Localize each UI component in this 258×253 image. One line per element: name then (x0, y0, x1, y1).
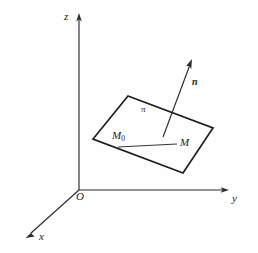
point-label-m0-subscript: 0 (121, 134, 125, 143)
x-axis-line (31, 190, 79, 233)
point-label-m: M (180, 137, 189, 148)
x-axis-label: x (39, 231, 44, 242)
plane-label-pi: π (141, 105, 146, 114)
plane-diagram-svg (0, 0, 258, 253)
normal-vector-label: n (192, 77, 198, 87)
point-label-m0: M0 (112, 130, 125, 141)
z-axis-label: z (64, 11, 68, 22)
point-label-m0-letter: M (112, 129, 121, 141)
y-axis-label: y (232, 193, 237, 204)
origin-label: O (76, 191, 84, 202)
figure-canvas: z y x O π M0 M n (0, 0, 258, 253)
